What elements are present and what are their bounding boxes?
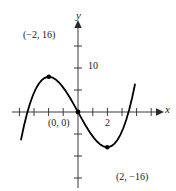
x-axis-label: x <box>165 104 170 115</box>
y-axis-label: y <box>76 10 81 21</box>
marker-local-minimum <box>105 145 109 149</box>
y-tick-label-10: 10 <box>88 61 98 71</box>
y-axis <box>74 20 81 188</box>
marker-local-maximum <box>47 75 51 79</box>
origin-point-label: (0, 0) <box>48 118 70 128</box>
cubic-function-graph: y x 10 2 (−2, 16) (0, 0) (2, −16) <box>0 0 176 191</box>
x-tick-label-2: 2 <box>105 118 110 128</box>
x-axis <box>12 108 164 116</box>
marker-origin <box>76 110 81 115</box>
minimum-point-label: (2, −16) <box>116 172 148 182</box>
maximum-point-label: (−2, 16) <box>23 30 55 40</box>
